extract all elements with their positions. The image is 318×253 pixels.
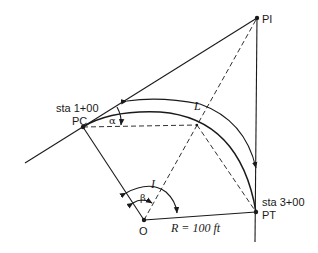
- center-point: [142, 218, 146, 222]
- pc-label: PC: [72, 115, 87, 127]
- pc-station-label: sta 1+00: [56, 102, 99, 114]
- chord-dashed-pc: [83, 125, 197, 127]
- radius-label: R = 100 ft: [170, 221, 221, 235]
- intersection-angle-label: I: [150, 177, 156, 191]
- curve-diagram: PI sta 1+00 PC sta 3+00 PT O R = 100 ft …: [0, 0, 318, 253]
- radius-line-pt: [144, 212, 256, 220]
- pi-point: [255, 16, 259, 20]
- chord-dashed-pt: [197, 125, 256, 212]
- pt-station-label: sta 3+00: [262, 196, 305, 208]
- back-tangent-line: [25, 18, 257, 163]
- pt-point: [254, 210, 258, 214]
- pi-label: PI: [262, 13, 272, 25]
- radius-line-pc: [83, 127, 144, 220]
- arc-length-label: L: [193, 99, 201, 113]
- alpha-angle-arc: [117, 107, 121, 125]
- alpha-label: α: [109, 115, 116, 126]
- center-label: O: [139, 225, 148, 237]
- beta-label: β: [140, 192, 146, 203]
- pt-label: PT: [262, 209, 276, 221]
- bisector-dashed-o-pi: [144, 18, 257, 220]
- chord-midpoint: [196, 124, 198, 126]
